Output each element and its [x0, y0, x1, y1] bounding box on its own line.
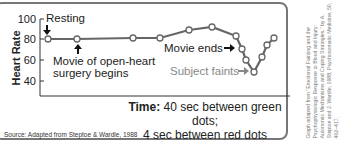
annotation-subject-faints: Subject faints	[170, 65, 239, 77]
time-line1: 40 sec between green dots;	[164, 100, 282, 128]
source-note: Source: Adapted from Steptoe & Wardle, 1…	[4, 131, 137, 138]
movie-ends-arrow-icon	[224, 44, 235, 52]
credit-text: Graph adapted from "Emotional Fainting a…	[305, 1, 340, 139]
credit-sidebar: Graph adapted from "Emotional Fainting a…	[297, 0, 337, 144]
annotation-movie-ends: Movie ends	[164, 42, 223, 54]
subject-faints-arrow-icon	[238, 67, 249, 75]
time-line2: 4 sec between red dots	[143, 128, 267, 142]
resting-arrow-icon	[43, 25, 51, 35]
movie-begins-arrow-icon	[74, 44, 82, 54]
time-label-bold: Time:	[128, 100, 160, 114]
annotation-movie-begins-line1: Movie of open-heart	[53, 55, 155, 67]
annotation-movie-begins-line2: surgery begins	[53, 67, 128, 79]
x-axis-label: Time: 40 sec between green dots; 4 sec b…	[120, 100, 290, 142]
annotation-resting: Resting	[46, 12, 85, 24]
